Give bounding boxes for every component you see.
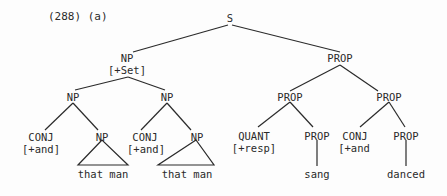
node-np-right: NP <box>161 91 174 103</box>
feature-and-2: [+and] <box>127 143 165 155</box>
node-np-left: NP <box>67 91 80 103</box>
node-prop-1: PROP <box>304 130 329 142</box>
node-conj-1: CONJ <box>28 131 53 143</box>
node-prop-2: PROP <box>393 130 418 142</box>
node-np-2: NP <box>191 131 204 143</box>
feature-resp: [+resp] <box>232 142 276 154</box>
node-prop-left: PROP <box>277 91 302 103</box>
node-np-set: NP <box>121 52 134 64</box>
node-conj-2: CONJ <box>132 131 157 143</box>
feature-set: [+Set] <box>108 64 146 76</box>
node-prop-right: PROP <box>376 91 401 103</box>
leaf-sang: sang <box>304 168 329 180</box>
node-np-1: NP <box>96 131 109 143</box>
example-number: (288) (a) <box>48 11 108 23</box>
node-quant: QUANT <box>238 130 270 142</box>
leaf-that-man-2: that man <box>162 168 213 180</box>
feature-and-3: [+and <box>338 142 370 154</box>
tree-diagram: (288) (a) S NP [+Set] NP NP CONJ [+and] … <box>0 0 447 196</box>
feature-and-1: [+and] <box>22 143 60 155</box>
leaf-danced: danced <box>387 168 425 180</box>
node-s: S <box>227 12 233 24</box>
node-conj-3: CONJ <box>342 130 367 142</box>
node-prop-top: PROP <box>327 52 352 64</box>
leaf-that-man-1: that man <box>78 168 129 180</box>
